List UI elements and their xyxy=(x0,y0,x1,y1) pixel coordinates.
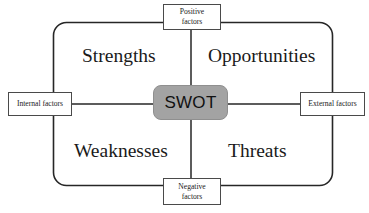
center-node-swot-label: SWOT xyxy=(164,93,216,113)
axis-box-positive-factors: Positive factors xyxy=(163,4,221,30)
axis-box-negative-factors-line1: Negative xyxy=(178,182,205,192)
center-node-swot: SWOT xyxy=(153,85,228,120)
axis-box-internal-factors: Internal factors xyxy=(8,92,72,116)
quadrant-label-opportunities: Opportunities xyxy=(208,45,315,67)
axis-box-positive-factors-line1: Positive xyxy=(180,7,204,17)
axis-box-negative-factors: Negative factors xyxy=(163,178,221,205)
axis-box-external-factors: External factors xyxy=(300,92,365,116)
swot-diagram-canvas: Strengths Opportunities Weaknesses Threa… xyxy=(0,0,369,213)
quadrant-label-strengths: Strengths xyxy=(82,45,156,67)
axis-box-external-factors-label: External factors xyxy=(308,99,356,109)
quadrant-label-weaknesses: Weaknesses xyxy=(74,140,168,162)
quadrant-label-threats: Threats xyxy=(228,140,286,162)
axis-box-internal-factors-label: Internal factors xyxy=(17,99,63,109)
axis-box-positive-factors-line2: factors xyxy=(182,17,203,27)
axis-box-negative-factors-line2: factors xyxy=(182,192,203,202)
